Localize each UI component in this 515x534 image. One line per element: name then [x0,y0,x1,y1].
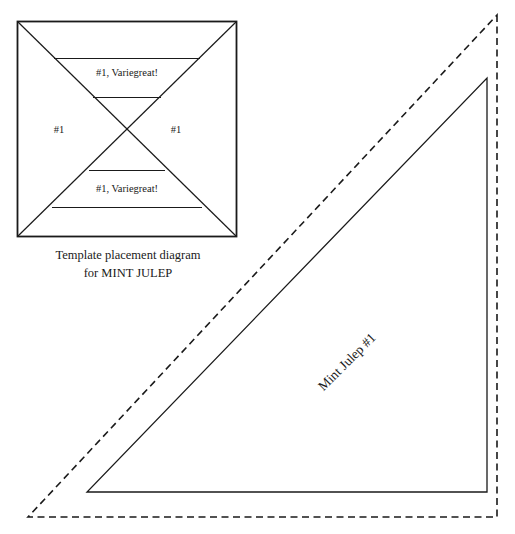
sewing-line-solid-triangle [87,78,487,492]
template-placement-diagram: #1, Variegreat! #1 #1 #1, Variegreat! Te… [18,22,237,281]
template-caption-line-1: Template placement diagram [56,248,201,262]
template-label-left-wedge: #1 [54,124,65,135]
template-label-top-wedge: #1, Variegreat! [96,67,158,78]
template-label-right-wedge: #1 [171,124,182,135]
mint-julep-piece-label: Mint Julep #1 [315,330,379,394]
template-caption-line-2: for MINT JULEP [84,266,173,280]
quilt-template-page: #1, Variegreat! #1 #1 #1, Variegreat! Te… [0,0,515,534]
drawing-canvas: #1, Variegreat! #1 #1 #1, Variegreat! Te… [0,0,515,534]
template-label-bottom-wedge: #1, Variegreat! [96,183,158,194]
